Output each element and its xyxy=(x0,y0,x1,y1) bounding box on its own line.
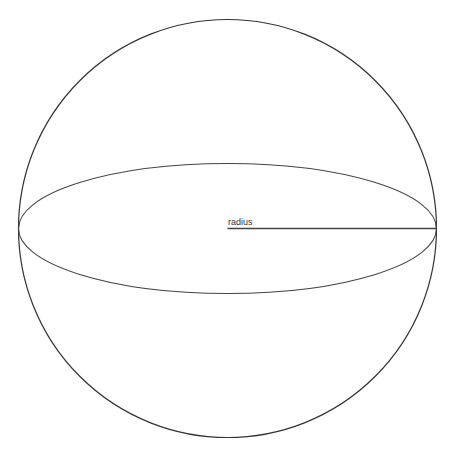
sphere-diagram: radius xyxy=(0,0,449,461)
radius-label: radius xyxy=(228,217,253,227)
